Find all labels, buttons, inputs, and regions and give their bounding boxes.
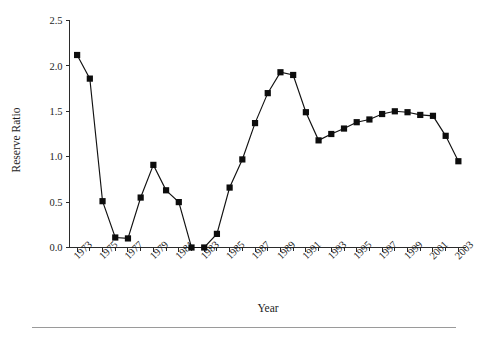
x-tick-label: 1977 [122,239,145,262]
x-tick-label: 1973 [71,239,94,262]
x-tick-label: 1979 [148,239,171,262]
x-tick-label: 1975 [97,239,120,262]
x-tick-label: 1991 [300,239,323,262]
data-point-marker [366,116,372,122]
x-tick-label: 1995 [351,239,374,262]
x-tick-label: 1999 [402,239,425,262]
data-point-marker [214,231,220,237]
data-series-line [77,55,458,248]
data-point-marker [404,109,410,115]
y-tick-label: 0.0 [49,242,62,253]
data-point-marker [188,244,194,250]
data-point-marker [138,194,144,200]
data-point-marker [392,108,398,114]
data-point-marker [227,184,233,190]
data-point-marker [315,137,321,143]
footer-divider [32,327,456,328]
y-axis-label: Reserve Ratio [10,107,22,172]
data-point-marker [252,120,258,126]
y-tick-label: 1.5 [49,106,62,117]
data-point-marker [303,109,309,115]
data-point-marker [74,52,80,58]
data-point-marker [87,76,93,82]
y-tick-label: 2.0 [49,61,62,72]
data-point-marker [112,234,118,240]
chart-figure: 0.00.51.01.52.02.51973197519771979198119… [0,0,484,338]
reserve-ratio-line-chart: 0.00.51.01.52.02.51973197519771979198119… [0,0,484,338]
x-tick-label: 2001 [427,239,450,262]
data-point-marker [277,69,283,75]
data-point-marker [455,158,461,164]
data-point-marker [125,235,131,241]
x-tick-label: 2003 [453,239,476,262]
x-tick-label: 1993 [326,239,349,262]
data-point-marker [99,198,105,204]
y-tick-label: 0.5 [49,197,62,208]
x-axis-label: Year [257,302,278,314]
data-point-marker [265,90,271,96]
x-tick-label: 1987 [249,239,272,262]
data-point-marker [379,111,385,117]
data-point-marker [328,131,334,137]
data-point-marker [443,133,449,139]
data-point-marker [417,112,423,118]
data-point-marker [430,113,436,119]
data-point-marker [290,72,296,78]
x-tick-label: 1985 [224,239,247,262]
data-point-marker [239,156,245,162]
data-point-marker [163,187,169,193]
data-point-marker [354,119,360,125]
y-tick-label: 2.5 [49,15,62,26]
data-point-marker [176,199,182,205]
x-tick-label: 1989 [275,239,298,262]
x-tick-label: 1997 [376,239,399,262]
y-tick-label: 1.0 [49,151,62,162]
data-point-marker [341,125,347,131]
data-point-marker [201,244,207,250]
data-point-marker [150,162,156,168]
